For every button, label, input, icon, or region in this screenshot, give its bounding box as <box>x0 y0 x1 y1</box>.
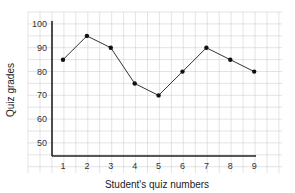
line-chart: 5060708090100 123456789 Quiz grades Stud… <box>0 0 295 193</box>
x-tick-label: 9 <box>252 161 257 171</box>
y-tick-label: 100 <box>32 19 47 29</box>
y-tick-label: 80 <box>37 67 47 77</box>
x-tick-label: 4 <box>132 161 137 171</box>
data-point-marker <box>133 81 137 85</box>
y-tick-label: 90 <box>37 43 47 53</box>
y-tick-label: 50 <box>37 138 47 148</box>
data-line <box>63 36 254 96</box>
data-point-marker <box>252 69 256 73</box>
x-tick-label: 5 <box>156 161 161 171</box>
data-point-marker <box>156 93 160 97</box>
x-tick-labels: 123456789 <box>60 161 256 171</box>
x-tick-label: 8 <box>228 161 233 171</box>
y-tick-label: 70 <box>37 90 47 100</box>
data-point-marker <box>61 58 65 62</box>
y-axis-label: Quiz grades <box>5 63 16 117</box>
data-point-marker <box>85 34 89 38</box>
x-tick-label: 6 <box>180 161 185 171</box>
y-tick-label: 60 <box>37 114 47 124</box>
data-point-marker <box>180 69 184 73</box>
x-axis-label: Student's quiz numbers <box>105 179 209 190</box>
data-point-marker <box>204 46 208 50</box>
grid-lines <box>28 12 282 173</box>
x-tick-label: 1 <box>60 161 65 171</box>
data-markers <box>61 34 257 98</box>
x-tick-label: 3 <box>108 161 113 171</box>
x-tick-label: 7 <box>204 161 209 171</box>
x-tick-label: 2 <box>84 161 89 171</box>
data-point-marker <box>228 58 232 62</box>
data-point-marker <box>109 46 113 50</box>
